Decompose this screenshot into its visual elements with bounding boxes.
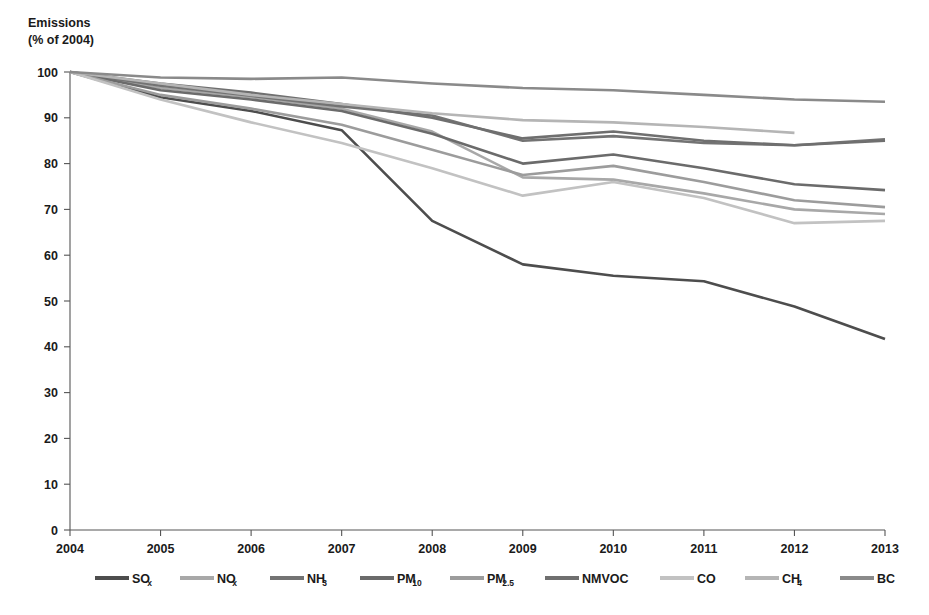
legend-item-pm25[interactable]: PM2.5 bbox=[450, 572, 514, 589]
y-tick-label-80: 80 bbox=[44, 157, 58, 171]
legend-label-nmvoc: NMVOC bbox=[582, 572, 629, 586]
y-tick-label-50: 50 bbox=[44, 295, 58, 309]
x-tick-label-2005: 2005 bbox=[147, 542, 175, 556]
x-tick-label-2006: 2006 bbox=[237, 542, 265, 556]
legend-label-co: CO bbox=[697, 572, 716, 586]
legend-item-sox[interactable]: SOx bbox=[95, 572, 152, 589]
legend-sublabel-pm10: 10 bbox=[412, 578, 422, 588]
x-tick-label-2004: 2004 bbox=[56, 542, 84, 556]
y-tick-label-60: 60 bbox=[44, 249, 58, 263]
legend-item-nmvoc[interactable]: NMVOC bbox=[545, 572, 629, 586]
x-tick-label-2011: 2011 bbox=[690, 542, 717, 556]
y-tick-label-30: 30 bbox=[44, 386, 58, 400]
series-line-sox bbox=[70, 72, 885, 339]
legend-sublabel-nh3: 3 bbox=[322, 578, 327, 588]
x-tick-label-2008: 2008 bbox=[418, 542, 446, 556]
y-tick-label-90: 90 bbox=[44, 111, 58, 125]
y-tick-label-70: 70 bbox=[44, 203, 58, 217]
y-tick-label-0: 0 bbox=[51, 524, 58, 538]
y-axis-title-line1: Emissions bbox=[28, 16, 91, 30]
y-tick-label-10: 10 bbox=[44, 478, 58, 492]
y-tick-label-40: 40 bbox=[44, 340, 58, 354]
chart-canvas: Emissions(% of 2004)01020304050607080901… bbox=[0, 0, 929, 615]
legend-item-bc[interactable]: BC bbox=[840, 572, 895, 586]
y-axis-title-line2: (% of 2004) bbox=[28, 33, 94, 47]
x-tick-label-2010: 2010 bbox=[599, 542, 627, 556]
x-tick-label-2012: 2012 bbox=[781, 542, 809, 556]
series-line-ch4 bbox=[70, 72, 794, 133]
legend-sublabel-ch4: 4 bbox=[797, 578, 802, 588]
legend-item-ch4[interactable]: CH4 bbox=[745, 572, 802, 589]
x-tick-label-2009: 2009 bbox=[509, 542, 537, 556]
legend-item-pm10[interactable]: PM10 bbox=[360, 572, 422, 589]
x-tick-label-2007: 2007 bbox=[328, 542, 356, 556]
legend-item-nox[interactable]: NOx bbox=[180, 572, 237, 589]
x-tick-label-2013: 2013 bbox=[871, 542, 899, 556]
y-tick-label-20: 20 bbox=[44, 432, 58, 446]
y-tick-label-100: 100 bbox=[37, 66, 58, 80]
legend-item-nh3[interactable]: NH3 bbox=[270, 572, 327, 589]
emissions-line-chart: Emissions(% of 2004)01020304050607080901… bbox=[0, 0, 929, 615]
legend-sublabel-pm25: 2.5 bbox=[502, 578, 514, 588]
legend-item-co[interactable]: CO bbox=[660, 572, 716, 586]
legend-sublabel-nox: x bbox=[232, 578, 237, 588]
legend-label-bc: BC bbox=[877, 572, 895, 586]
legend-sublabel-sox: x bbox=[147, 578, 152, 588]
